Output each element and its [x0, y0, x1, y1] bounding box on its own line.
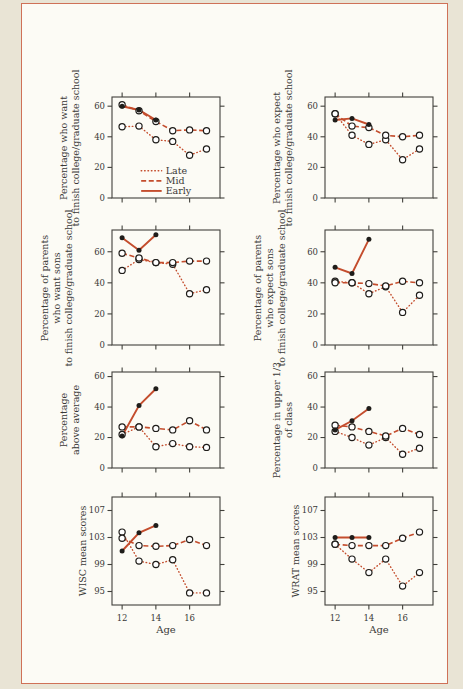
x-axis-title: Age [368, 624, 389, 635]
data-point-late [400, 451, 406, 457]
data-point-mid [400, 425, 406, 431]
y-tick-label: 20 [94, 309, 105, 319]
data-point-mid [400, 134, 406, 140]
series-mid-line [335, 425, 419, 436]
data-point-late [203, 146, 209, 152]
y-tick-label: 60 [94, 247, 105, 257]
y-tick-label: 40 [307, 278, 318, 288]
plot-box [325, 230, 433, 345]
data-point-mid [366, 428, 372, 434]
data-point-early [333, 535, 338, 540]
data-point-mid [400, 278, 406, 284]
y-tick-label: 20 [94, 162, 105, 172]
data-point-late [187, 152, 193, 158]
data-point-early [366, 122, 371, 127]
series-late-line [335, 431, 419, 454]
y-tick-label: 20 [307, 309, 318, 319]
data-point-early [366, 406, 371, 411]
data-point-late [187, 590, 193, 596]
data-point-early [120, 549, 125, 554]
data-point-mid [366, 543, 372, 549]
data-point-late [153, 444, 159, 450]
data-point-late [416, 445, 422, 451]
data-point-mid [349, 543, 355, 549]
data-point-late [153, 137, 159, 143]
series-late-line [335, 281, 419, 312]
data-point-mid [119, 250, 125, 256]
data-point-mid [366, 281, 372, 287]
data-point-mid [383, 433, 389, 439]
y-tick-label: 0 [313, 193, 318, 203]
data-point-mid [416, 280, 422, 286]
data-point-early [153, 232, 158, 237]
x-tick-label: 16 [397, 613, 408, 623]
data-point-late [416, 292, 422, 298]
y-tick-label: 40 [94, 278, 105, 288]
data-point-early [350, 418, 355, 423]
data-point-late [366, 442, 372, 448]
y-tick-label: 20 [94, 432, 105, 442]
data-point-late [119, 267, 125, 273]
y-tick-label: 40 [307, 132, 318, 142]
chart-above-average-y-axis-label: Percentage above average [58, 385, 82, 455]
data-point-late [170, 557, 176, 563]
data-point-early [350, 271, 355, 276]
chart-wrat: 1214169599103107Age [295, 487, 445, 635]
y-tick-label: 0 [100, 340, 105, 350]
data-point-early [137, 248, 142, 253]
data-point-mid [349, 123, 355, 129]
data-point-early [333, 265, 338, 270]
y-tick-label: 40 [94, 132, 105, 142]
data-point-late [366, 291, 372, 297]
data-point-mid [119, 424, 125, 430]
data-point-mid [136, 424, 142, 430]
series-late-line [335, 544, 419, 586]
chart-parents-expect: 0204060 [295, 220, 445, 355]
y-tick-label: 60 [307, 371, 318, 381]
data-point-early [153, 386, 158, 391]
data-point-mid [170, 128, 176, 134]
data-point-early [350, 535, 355, 540]
data-point-late [187, 291, 193, 297]
data-point-mid [170, 260, 176, 266]
data-point-late [383, 556, 389, 562]
data-point-early [120, 434, 125, 439]
series-mid-line [335, 281, 419, 286]
data-point-early [153, 523, 158, 528]
data-point-late [170, 441, 176, 447]
data-point-late [153, 561, 159, 567]
y-tick-label: 60 [94, 371, 105, 381]
series-mid-line [122, 253, 206, 262]
data-point-late [400, 309, 406, 315]
legend-label-early: Early [166, 185, 192, 196]
charts-grid: Percentage who want to finish college/gr… [0, 0, 463, 689]
data-point-mid [119, 535, 125, 541]
data-point-mid [383, 283, 389, 289]
data-point-early [153, 118, 158, 123]
y-tick-label: 60 [94, 101, 105, 111]
y-tick-label: 107 [89, 505, 105, 515]
data-point-mid [187, 536, 193, 542]
chart-expect-college-y-axis-label: Percentage who expect to finish college/… [271, 69, 295, 226]
y-tick-label: 60 [307, 101, 318, 111]
y-tick-label: 0 [100, 193, 105, 203]
y-tick-label: 95 [94, 586, 105, 596]
data-point-early [120, 235, 125, 240]
series-early-line [335, 239, 369, 273]
x-tick-label: 12 [117, 613, 128, 623]
data-point-late [203, 287, 209, 293]
data-point-mid [383, 132, 389, 138]
data-point-mid [349, 424, 355, 430]
data-point-late [203, 444, 209, 450]
data-point-mid [170, 543, 176, 549]
data-point-early [137, 108, 142, 113]
y-tick-label: 103 [89, 532, 105, 542]
y-tick-label: 0 [313, 340, 318, 350]
data-point-late [400, 583, 406, 589]
data-point-mid [203, 427, 209, 433]
x-axis-title: Age [155, 624, 176, 635]
data-point-late [136, 558, 142, 564]
chart-want-college-y-axis-label: Percentage who want to finish college/gr… [58, 69, 82, 226]
data-point-mid [383, 543, 389, 549]
y-tick-label: 20 [307, 162, 318, 172]
